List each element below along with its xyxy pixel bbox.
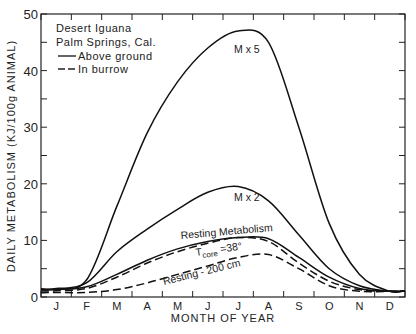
- month-label: A: [143, 300, 151, 312]
- legend-above-ground: Above ground: [78, 50, 153, 62]
- month-label: A: [265, 300, 273, 312]
- annotation-resting-200cm: Resting - 200 cm: [162, 256, 242, 287]
- annotation-mx5: M x 5: [234, 43, 260, 55]
- y-tick-label: 30: [24, 120, 38, 135]
- month-label: M: [173, 300, 182, 312]
- month-label: D: [386, 300, 394, 312]
- x-axis-label: MONTH OF YEAR: [171, 312, 275, 324]
- month-label: J: [53, 300, 59, 312]
- y-axis-label: DAILY METABOLISM (KJ/100g ANIMAL): [5, 40, 17, 272]
- month-label: J: [235, 300, 241, 312]
- metabolism-chart: 01020304050 JFMAMJJASOND DAILY METABOLIS…: [0, 0, 416, 334]
- month-label: M: [112, 300, 121, 312]
- month-label: S: [295, 300, 302, 312]
- month-label: N: [356, 300, 364, 312]
- y-tick-label: 50: [24, 7, 38, 22]
- month-label: O: [325, 300, 334, 312]
- y-tick-label: 20: [24, 177, 38, 192]
- y-tick-label: 40: [24, 64, 38, 79]
- legend-title-line-2: Palm Springs, Cal.: [56, 36, 156, 48]
- month-label: F: [83, 300, 90, 312]
- legend: Desert Iguana Palm Springs, Cal. Above g…: [56, 22, 156, 75]
- legend-title-line-1: Desert Iguana: [56, 22, 132, 34]
- month-label: J: [205, 300, 211, 312]
- y-tick-label: 0: [31, 290, 38, 305]
- y-tick-label: 10: [24, 233, 38, 248]
- annotation-mx2: M x 2: [234, 191, 260, 203]
- legend-in-burrow: In burrow: [78, 63, 128, 75]
